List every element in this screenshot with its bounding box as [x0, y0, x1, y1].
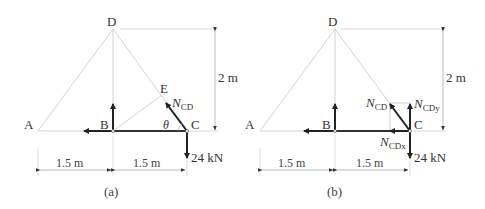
label-ncd: NCD [366, 96, 387, 112]
label-point-b: B [322, 118, 331, 131]
member-ad [38, 29, 113, 131]
label-angle-theta: θ [163, 119, 169, 131]
label-point-d: D [107, 15, 116, 28]
label-ncd: NCD [172, 96, 193, 112]
label-point-c: C [414, 118, 423, 131]
label-ncdx: NCDx [380, 135, 406, 151]
label-dim-height: 2 m [446, 71, 466, 84]
label-load: 24 kN [414, 151, 446, 164]
label-dim-height: 2 m [218, 71, 238, 84]
label-dim-left: 1.5 m [278, 157, 305, 169]
label-point-e: E [160, 82, 168, 95]
label-point-a: A [245, 118, 254, 131]
label-ncdy: NCDy [414, 97, 440, 113]
caption-a: (a) [104, 185, 118, 198]
label-point-a: A [24, 118, 33, 131]
label-dim-right: 1.5 m [356, 157, 383, 169]
label-point-c: C [191, 118, 200, 131]
label-load: 24 kN [191, 151, 223, 164]
truss-diagram [0, 0, 485, 209]
member-be [113, 95, 162, 131]
label-point-b: B [100, 118, 109, 131]
label-dim-right: 1.5 m [133, 157, 160, 169]
label-dim-left: 1.5 m [56, 157, 83, 169]
caption-b: (b) [327, 185, 342, 198]
label-point-d: D [328, 15, 337, 28]
